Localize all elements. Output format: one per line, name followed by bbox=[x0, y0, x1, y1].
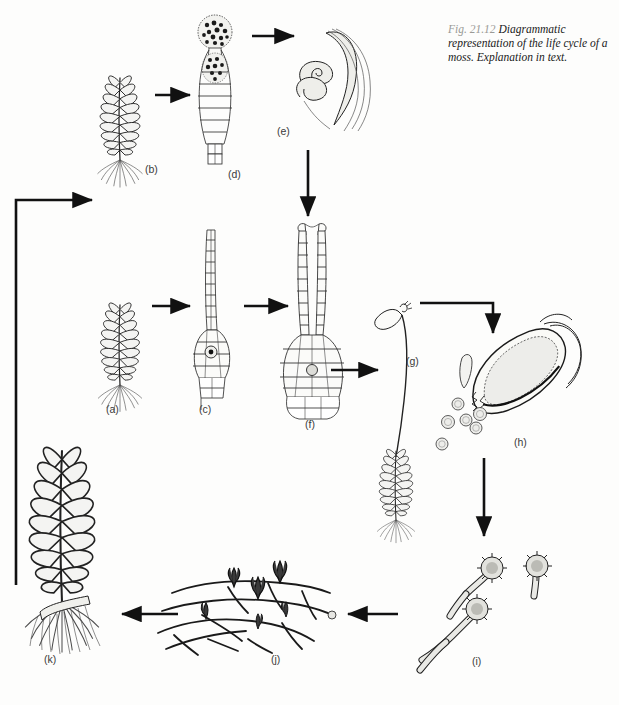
stage-label-i: (i) bbox=[472, 655, 481, 667]
stage-label-j: (j) bbox=[271, 653, 280, 665]
arrow-g-to-h bbox=[420, 303, 493, 333]
stage-label-e: (e) bbox=[277, 125, 290, 137]
stage-label-f: (f) bbox=[305, 418, 315, 430]
arrow-k-to-b bbox=[16, 200, 92, 585]
stage-label-c: (c) bbox=[199, 403, 211, 415]
stage-label-d: (d) bbox=[228, 168, 241, 180]
arrow-network bbox=[0, 0, 619, 705]
figure-number: Fig. 21.12 bbox=[448, 23, 496, 35]
moss-life-cycle-figure: Fig. 21.12 Diagrammatic representation o… bbox=[0, 0, 619, 705]
stage-label-k: (k) bbox=[44, 653, 56, 665]
stage-label-h: (h) bbox=[514, 436, 527, 448]
stage-label-b: (b) bbox=[145, 163, 158, 175]
figure-caption: Fig. 21.12 Diagrammatic representation o… bbox=[448, 22, 616, 65]
stage-label-g: (g) bbox=[406, 355, 419, 367]
stage-label-a: (a) bbox=[106, 403, 119, 415]
